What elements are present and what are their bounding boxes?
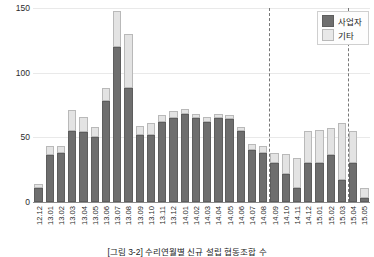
bar-group (55, 8, 66, 202)
legend-item-사업자[interactable]: 사업자 (322, 15, 362, 27)
bar-segment-기타 (113, 11, 121, 47)
bar (46, 146, 54, 202)
bar-segment-사업자 (57, 153, 65, 202)
bar-segment-사업자 (79, 132, 87, 202)
bar-group (291, 8, 302, 202)
bar-segment-기타 (349, 131, 357, 163)
x-tick-14.09: 14.09 (270, 206, 279, 225)
x-tick-13.01: 13.01 (45, 206, 54, 225)
bar-segment-사업자 (338, 180, 346, 202)
x-tick-13.06: 13.06 (102, 206, 111, 225)
bar (102, 88, 110, 202)
bar-segment-사업자 (34, 188, 42, 202)
bar (34, 184, 42, 202)
bar-segment-사업자 (181, 114, 189, 202)
bar-group (269, 8, 280, 202)
bar-group (246, 8, 257, 202)
x-tick-wrap: 14.04 (213, 202, 224, 250)
x-tick-13.09: 13.09 (135, 206, 144, 225)
bar-segment-사업자 (136, 135, 144, 202)
bar-group (190, 8, 201, 202)
bar-segment-기타 (282, 154, 290, 173)
x-tick-13.05: 13.05 (90, 206, 99, 225)
bar-segment-사업자 (248, 150, 256, 202)
bar-segment-사업자 (327, 155, 335, 202)
legend-label: 기타 (338, 29, 354, 41)
bar (158, 115, 166, 202)
x-tick-15.04: 15.04 (349, 206, 358, 225)
bar-group (157, 8, 168, 202)
bar-group (145, 8, 156, 202)
bar-segment-사업자 (203, 122, 211, 202)
legend: 사업자기타 (317, 11, 369, 45)
x-tick-wrap: 15.05 (359, 202, 370, 250)
bar-segment-기타 (304, 131, 312, 163)
bar (270, 153, 278, 202)
x-tick-wrap: 14.11 (291, 202, 302, 250)
bar-segment-기타 (124, 34, 132, 88)
bar-segment-사업자 (315, 163, 323, 202)
x-tick-14.04: 14.04 (214, 206, 223, 225)
x-tick-wrap: 14.05 (224, 202, 235, 250)
x-tick-wrap: 13.10 (145, 202, 156, 250)
bar (124, 34, 132, 202)
x-tick-wrap: 15.01 (314, 202, 325, 250)
bar (225, 115, 233, 202)
bar (192, 114, 200, 202)
bar-segment-기타 (147, 123, 155, 135)
bar-segment-기타 (270, 153, 278, 163)
x-tick-14.07: 14.07 (248, 206, 257, 225)
bar-segment-사업자 (259, 153, 267, 202)
bar-group (33, 8, 44, 202)
bar-segment-기타 (68, 110, 76, 131)
bar (203, 117, 211, 202)
bar (327, 128, 335, 202)
bar (181, 109, 189, 202)
x-tick-wrap: 14.09 (269, 202, 280, 250)
bar-segment-사업자 (169, 118, 177, 202)
bar-segment-사업자 (46, 155, 54, 202)
legend-item-기타[interactable]: 기타 (322, 29, 362, 41)
bar-segment-사업자 (225, 119, 233, 202)
x-tick-13.07: 13.07 (113, 206, 122, 225)
x-tick-14.06: 14.06 (236, 206, 245, 225)
y-tick-50: 50 (4, 132, 30, 142)
bar (259, 146, 267, 202)
bar-group (213, 8, 224, 202)
x-tick-12.12: 12.12 (34, 206, 43, 225)
bar-segment-기타 (360, 188, 368, 198)
bar-segment-사업자 (91, 137, 99, 202)
bar-segment-사업자 (158, 122, 166, 202)
x-tick-14.08: 14.08 (259, 206, 268, 225)
x-tick-wrap: 14.10 (280, 202, 291, 250)
bar-segment-사업자 (237, 131, 245, 202)
x-tick-13.08: 13.08 (124, 206, 133, 225)
bar-group (89, 8, 100, 202)
y-tick-0: 0 (4, 197, 30, 207)
bar-segment-기타 (46, 146, 54, 155)
bar-segment-사업자 (147, 135, 155, 202)
bar (338, 123, 346, 202)
x-tick-15.01: 15.01 (315, 206, 324, 225)
x-tick-15.05: 15.05 (360, 206, 369, 225)
bar-segment-기타 (315, 130, 323, 164)
x-tick-15.02: 15.02 (326, 206, 335, 225)
x-tick-13.10: 13.10 (146, 206, 155, 225)
bar-segment-사업자 (124, 88, 132, 202)
bar-segment-사업자 (349, 163, 357, 202)
bar-segment-기타 (91, 127, 99, 137)
bar-segment-기타 (102, 88, 110, 101)
bar-segment-기타 (338, 123, 346, 180)
bar-segment-사업자 (214, 118, 222, 202)
x-tick-wrap: 12.12 (33, 202, 44, 250)
bar-segment-기타 (136, 126, 144, 135)
x-tick-14.05: 14.05 (225, 206, 234, 225)
bar-group (202, 8, 213, 202)
x-tick-wrap: 13.04 (78, 202, 89, 250)
bar-segment-사업자 (192, 118, 200, 202)
bar-segment-사업자 (282, 174, 290, 202)
x-tick-wrap: 15.03 (336, 202, 347, 250)
y-tick-100: 100 (4, 68, 30, 78)
x-tick-wrap: 13.06 (100, 202, 111, 250)
